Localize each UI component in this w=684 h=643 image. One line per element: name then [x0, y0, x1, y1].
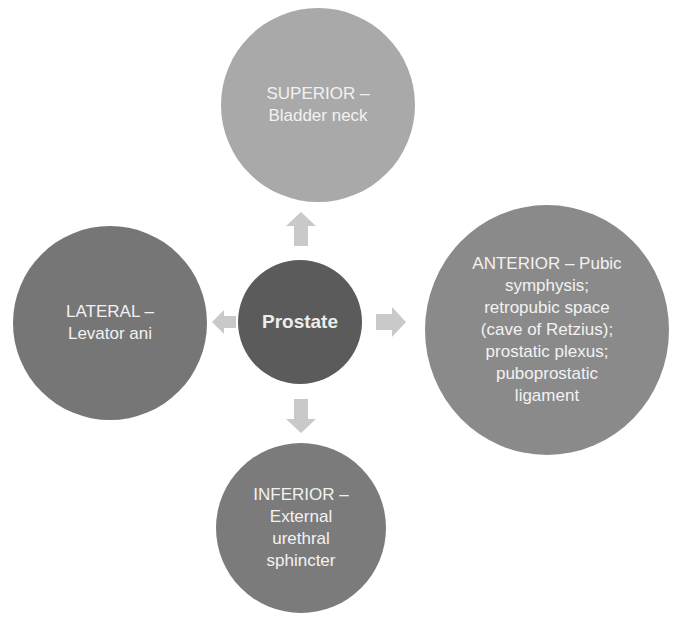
superior-node: SUPERIOR – Bladder neck: [221, 8, 415, 202]
center-node-prostate: Prostate: [238, 260, 362, 384]
arrow-right-icon: [376, 307, 406, 337]
superior-label: SUPERIOR – Bladder neck: [267, 83, 370, 127]
lateral-node: LATERAL – Levator ani: [13, 226, 207, 420]
inferior-node: INFERIOR – External urethral sphincter: [216, 443, 386, 613]
anterior-node: ANTERIOR – Pubic symphysis; retropubic s…: [425, 205, 669, 455]
arrow-left-icon: [212, 310, 236, 334]
lateral-label: LATERAL – Levator ani: [66, 301, 154, 345]
arrow-up-icon: [286, 212, 316, 246]
anterior-label: ANTERIOR – Pubic symphysis; retropubic s…: [472, 253, 621, 407]
center-label: Prostate: [262, 311, 338, 333]
inferior-label: INFERIOR – External urethral sphincter: [253, 484, 348, 572]
arrow-down-icon: [286, 399, 316, 433]
